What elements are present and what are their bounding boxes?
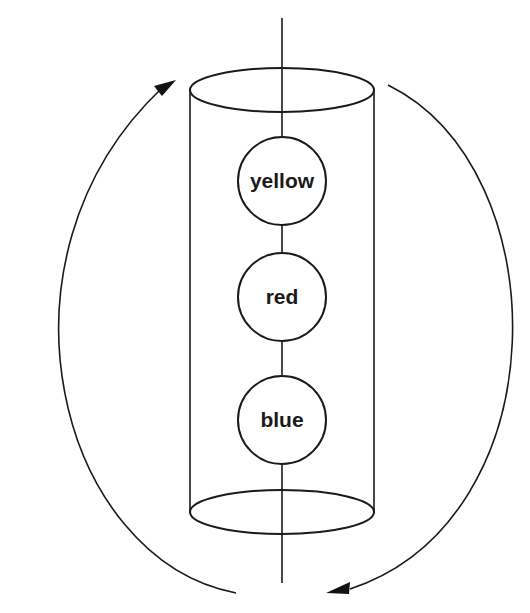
node-yellow: yellow [238,137,326,225]
node-label-red: red [266,285,299,308]
rotating-cylinder-diagram: yellow red blue [0,0,530,613]
node-label-blue: blue [260,408,303,431]
right-rotation-arrow [326,85,513,594]
left-rotation-arrow [59,80,236,593]
node-blue: blue [238,376,326,464]
node-red: red [238,253,326,341]
arrowhead-down-icon [326,582,350,594]
node-label-yellow: yellow [250,169,315,192]
